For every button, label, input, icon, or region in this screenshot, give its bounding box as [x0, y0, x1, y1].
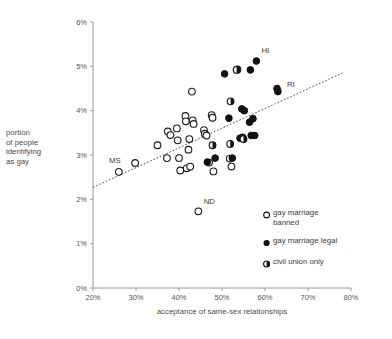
data-point-filled-circle: [275, 88, 282, 95]
data-point-half-filled-circle: [240, 136, 247, 143]
data-point-filled-circle: [253, 58, 260, 65]
data-point-open-circle: [154, 142, 161, 149]
x-tick-label: 70%: [300, 293, 315, 302]
y-tick-label: 1%: [76, 239, 87, 248]
data-point-open-circle: [190, 121, 197, 128]
open-circle-icon: [262, 210, 273, 221]
legend-label-banned-line-1: gay marriage: [273, 208, 388, 218]
point-label-hi: HI: [261, 46, 269, 55]
data-point-filled-circle: [250, 115, 257, 122]
point-label-nd: ND: [204, 197, 216, 206]
data-point-filled-circle: [226, 115, 233, 122]
data-point-open-circle: [203, 132, 210, 139]
data-point-open-circle: [185, 146, 192, 153]
data-point-open-circle: [115, 168, 122, 175]
data-point-open-circle: [209, 114, 216, 121]
x-tick-label: 50%: [214, 293, 229, 302]
data-point-half-filled-circle: [209, 142, 216, 149]
data-point-half-filled-circle: [227, 141, 234, 148]
x-tick-label: 30%: [128, 293, 143, 302]
data-point-open-circle: [177, 167, 184, 174]
plot-canvas: 0%1%2%3%4%5%6%20%30%40%50%60%70%80% MSND…: [0, 0, 392, 339]
chart-legend: gay marriage banned gay marriage legal c…: [262, 208, 388, 278]
legend-label-civil-union: civil union only: [273, 257, 388, 267]
data-point-open-circle: [195, 208, 202, 215]
data-point-open-circle: [174, 137, 181, 144]
y-axis-title: portion of people identifying as gay: [6, 128, 74, 166]
data-point-half-filled-circle: [233, 67, 240, 74]
data-point-filled-circle: [229, 155, 236, 162]
data-point-open-circle: [186, 136, 193, 143]
half-filled-circle-icon: [262, 259, 273, 270]
y-axis-title-line-2: of people: [6, 138, 74, 148]
data-point-open-circle: [132, 160, 139, 167]
y-axis-title-line-4: as gay: [6, 157, 74, 167]
y-tick-label: 4%: [76, 106, 87, 115]
x-tick-label: 60%: [257, 293, 272, 302]
x-tick-label: 40%: [171, 293, 186, 302]
data-point-filled-circle: [212, 155, 219, 162]
filled-circle-icon: [262, 238, 273, 249]
legend-label-banned-line-2: banned: [273, 218, 388, 228]
data-point-open-circle: [174, 125, 181, 132]
y-axis-title-line-1: portion: [6, 128, 74, 138]
y-tick-label: 3%: [76, 151, 87, 160]
legend-item-banned[interactable]: gay marriage banned: [262, 208, 388, 228]
data-point-filled-circle: [241, 107, 248, 114]
data-point-open-circle: [183, 118, 190, 125]
x-tick-label: 20%: [85, 293, 100, 302]
data-point-open-circle: [176, 155, 183, 162]
data-point-open-circle: [210, 168, 217, 175]
data-point-filled-circle: [204, 159, 211, 166]
data-point-open-circle: [228, 163, 235, 170]
point-annotations-layer: MSNDHIRI: [109, 46, 295, 206]
y-tick-label: 6%: [76, 18, 87, 27]
data-point-open-circle: [167, 132, 174, 139]
legend-item-civil-union[interactable]: civil union only: [262, 257, 388, 270]
axis-title-layer: acceptance of same-sex relationships: [157, 307, 288, 316]
y-tick-label: 0%: [76, 284, 87, 293]
data-point-half-filled-circle: [227, 98, 234, 105]
x-tick-label: 80%: [343, 293, 358, 302]
y-tick-label: 5%: [76, 62, 87, 71]
data-point-open-circle: [189, 88, 196, 95]
scatter-chart: 0%1%2%3%4%5%6%20%30%40%50%60%70%80% MSND…: [0, 0, 392, 339]
legend-item-legal[interactable]: gay marriage legal: [262, 236, 388, 249]
data-point-filled-circle: [251, 132, 258, 139]
data-point-filled-circle: [247, 67, 254, 74]
y-axis-title-line-3: identifying: [6, 147, 74, 157]
trendline-layer: [93, 73, 342, 187]
y-tick-label: 2%: [76, 195, 87, 204]
data-point-open-circle: [187, 163, 194, 170]
x-axis-title: acceptance of same-sex relationships: [157, 307, 288, 316]
data-point-open-circle: [164, 155, 171, 162]
legend-label-banned: gay marriage banned: [273, 208, 388, 228]
point-label-ri: RI: [287, 80, 295, 89]
data-points-layer: [115, 58, 281, 215]
data-point-filled-circle: [221, 71, 228, 78]
point-label-ms: MS: [109, 156, 121, 165]
legend-label-legal: gay marriage legal: [273, 236, 388, 246]
